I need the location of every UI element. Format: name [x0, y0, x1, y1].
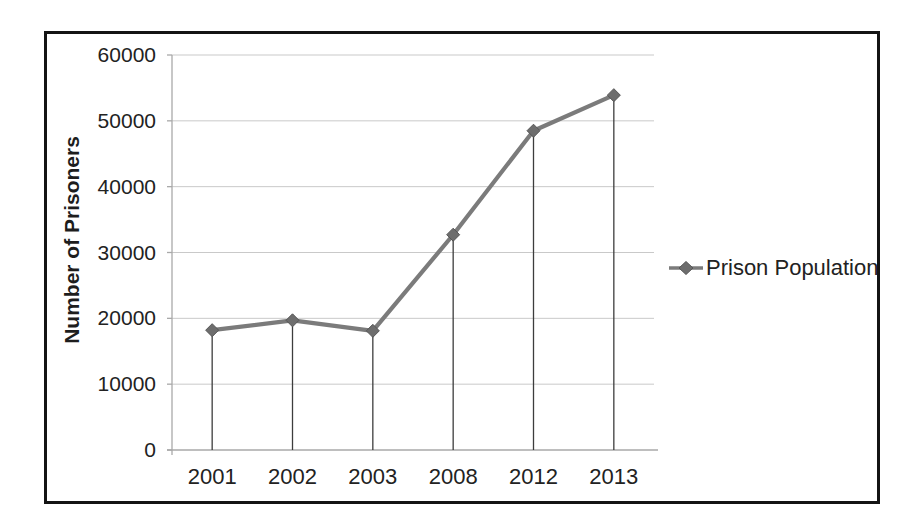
x-tick-label: 2003 — [348, 464, 397, 489]
y-tick-label: 40000 — [98, 175, 156, 198]
x-tick-label: 2002 — [268, 464, 317, 489]
data-point-marker — [206, 324, 219, 337]
data-point-markers — [206, 89, 621, 338]
y-tick-label: 20000 — [98, 306, 156, 329]
y-axis-title: Number of Prisoners — [60, 136, 84, 344]
legend: Prison Population — [668, 255, 878, 281]
scanned-chart-figure: 0100002000030000400005000060000200120022… — [0, 0, 920, 532]
series-line-prison-population — [212, 95, 614, 331]
y-tick-label: 50000 — [98, 109, 156, 132]
axes — [167, 55, 658, 455]
drop-lines — [212, 95, 614, 450]
y-tick-label: 30000 — [98, 241, 156, 264]
legend-line-diamond-icon — [668, 260, 704, 276]
y-tick-label: 10000 — [98, 372, 156, 395]
x-tick-label: 2008 — [429, 464, 478, 489]
data-point-marker — [607, 89, 620, 102]
gridlines — [172, 55, 654, 384]
data-point-marker — [286, 314, 299, 327]
legend-label: Prison Population — [706, 255, 878, 281]
x-axis-labels: 200120022003200820122013 — [188, 464, 639, 489]
y-axis-labels: 0100002000030000400005000060000 — [98, 43, 156, 461]
y-tick-label: 0 — [144, 438, 156, 461]
y-tick-label: 60000 — [98, 43, 156, 66]
x-tick-label: 2012 — [509, 464, 558, 489]
x-tick-label: 2013 — [589, 464, 638, 489]
x-tick-label: 2001 — [188, 464, 237, 489]
